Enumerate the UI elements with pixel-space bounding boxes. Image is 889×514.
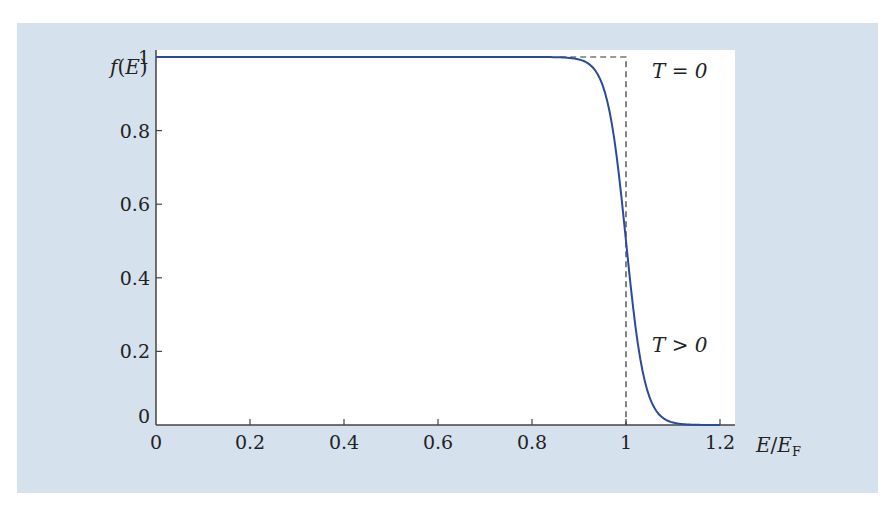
annotation-t-positive: T > 0 xyxy=(652,333,708,357)
chart: 00.20.40.60.811.2 00.20.40.60.81 f(E) E/… xyxy=(0,0,889,514)
x-tick-label: 0.2 xyxy=(235,431,265,453)
x-tick-label: 1.2 xyxy=(705,431,735,453)
figure: 00.20.40.60.811.2 00.20.40.60.81 f(E) E/… xyxy=(0,0,889,514)
y-tick-label: 0 xyxy=(138,405,150,427)
y-tick-label: 0.6 xyxy=(120,193,150,215)
y-axis-label: f(E) xyxy=(108,55,148,79)
y-tick-label: 0.8 xyxy=(120,120,150,142)
x-tick-label: 0.8 xyxy=(517,431,547,453)
annotation-t-zero: T = 0 xyxy=(652,59,708,83)
x-tick-label: 0.6 xyxy=(423,431,453,453)
x-tick-label: 0 xyxy=(150,431,162,453)
x-axis-label: E/EF xyxy=(755,433,801,459)
y-tick-label: 0.2 xyxy=(120,340,150,362)
y-tick-label: 0.4 xyxy=(120,267,150,289)
plot-area xyxy=(156,50,735,425)
x-tick-label: 0.4 xyxy=(329,431,359,453)
x-tick-label: 1 xyxy=(620,431,632,453)
